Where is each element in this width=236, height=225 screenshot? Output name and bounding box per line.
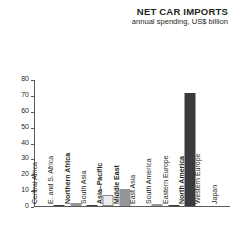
y-tick-label: 50 [21, 123, 29, 131]
bar[interactable] [87, 205, 98, 206]
y-axis-tick: 80 [12, 80, 34, 81]
chart-title: NET CAR IMPORTS [48, 6, 228, 17]
chart-figure: NET CAR IMPORTS annual spending, US$ bil… [0, 0, 236, 225]
y-tick-label: 10 [21, 186, 29, 194]
y-tick-label: 20 [21, 170, 29, 178]
x-axis-category-label: South America [145, 158, 153, 204]
chart-header: NET CAR IMPORTS annual spending, US$ bil… [48, 6, 228, 27]
y-tick-label: 40 [21, 139, 29, 147]
x-axis-category-label: Western Europe [194, 154, 202, 204]
x-axis-category-label: Japan [211, 185, 219, 204]
y-tick-label: 80 [21, 75, 29, 83]
y-axis-tick: 30 [12, 159, 34, 160]
y-tick-mark [31, 80, 34, 81]
x-axis-line [34, 206, 230, 207]
y-tick-mark [31, 207, 34, 208]
x-axis-category-label: North America [178, 156, 186, 204]
bar[interactable] [54, 205, 65, 206]
y-tick-mark [31, 159, 34, 160]
chart-subtitle: annual spending, US$ billion [48, 17, 228, 27]
y-tick-label: 70 [21, 91, 29, 99]
y-tick-mark [31, 96, 34, 97]
y-axis-tick: 50 [12, 128, 34, 129]
y-axis-tick: 60 [12, 112, 34, 113]
y-axis-tick: 40 [12, 144, 34, 145]
y-tick-mark [31, 128, 34, 129]
y-tick-label: 30 [21, 154, 29, 162]
x-axis-category-label: South Asia [80, 171, 88, 204]
x-axis-category-label: E. and S. Africa [47, 156, 55, 204]
bar-group[interactable]: Japan [215, 80, 231, 206]
y-tick-label: 0 [25, 202, 29, 210]
x-axis-category-label: Eastern Europe [162, 155, 170, 204]
y-tick-mark [31, 112, 34, 113]
x-axis-category-label: Middle East [113, 165, 121, 204]
y-tick-mark [31, 144, 34, 145]
bar[interactable] [168, 205, 179, 206]
x-axis-category-label: Central Africa [31, 162, 39, 204]
x-axis-category-label: Asia–Pacific [96, 163, 104, 204]
bar-series: Central AfricaE. and S. AfricaNorthern A… [35, 80, 230, 206]
y-axis-tick: 70 [12, 96, 34, 97]
x-axis-category-label: East Asia [129, 175, 137, 204]
y-axis-tick: 0 [12, 207, 34, 208]
plot-area: 01020304050607080 Central AfricaE. and S… [34, 80, 230, 207]
x-axis-category-label: Northern Africa [64, 153, 72, 204]
y-tick-label: 60 [21, 107, 29, 115]
